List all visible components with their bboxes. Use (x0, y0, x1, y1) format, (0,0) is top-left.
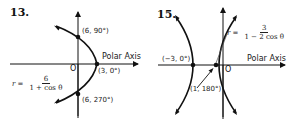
point-label: (−3, 0°) (162, 55, 190, 63)
polar-axis-label: Polar Axis (247, 54, 286, 63)
origin-label: O (225, 65, 231, 74)
point-1-180 (214, 63, 219, 68)
equation-numerator: 6 (42, 75, 50, 84)
figure-number: 13. (10, 6, 29, 19)
equation-numerator: 3 (260, 24, 268, 33)
figure-13: 13. (6, 90°) Polar Axis (3, 0°) (6, 270°… (0, 0, 147, 123)
figure-number: 15. (157, 8, 176, 21)
equation: r = 6 1 + cos θ (12, 75, 64, 92)
point-6-90 (76, 35, 81, 40)
equation-lhs: r = (12, 80, 23, 88)
polar-axis-label: Polar Axis (102, 52, 141, 61)
point-label: (6, 90°) (82, 27, 109, 35)
point-neg3-0 (191, 63, 196, 68)
point-3-0 (95, 62, 100, 67)
equation: r = 3 1 − 2 cos θ (227, 24, 286, 41)
origin-label: O (70, 64, 76, 73)
point-label: (6, 270°) (82, 96, 113, 104)
point-6-270 (76, 92, 81, 97)
figure-15: 15. r = 3 1 − 2 cos θ (−3, 0°) Polar Axi… (147, 0, 294, 123)
equation-denominator: 1 − 2 cos θ (242, 33, 286, 41)
equation-denominator: 1 + cos θ (27, 84, 64, 92)
point-label: (3, 0°) (98, 67, 120, 75)
point-label: (1, 180°) (190, 85, 221, 93)
equation-lhs: r = (227, 29, 238, 37)
